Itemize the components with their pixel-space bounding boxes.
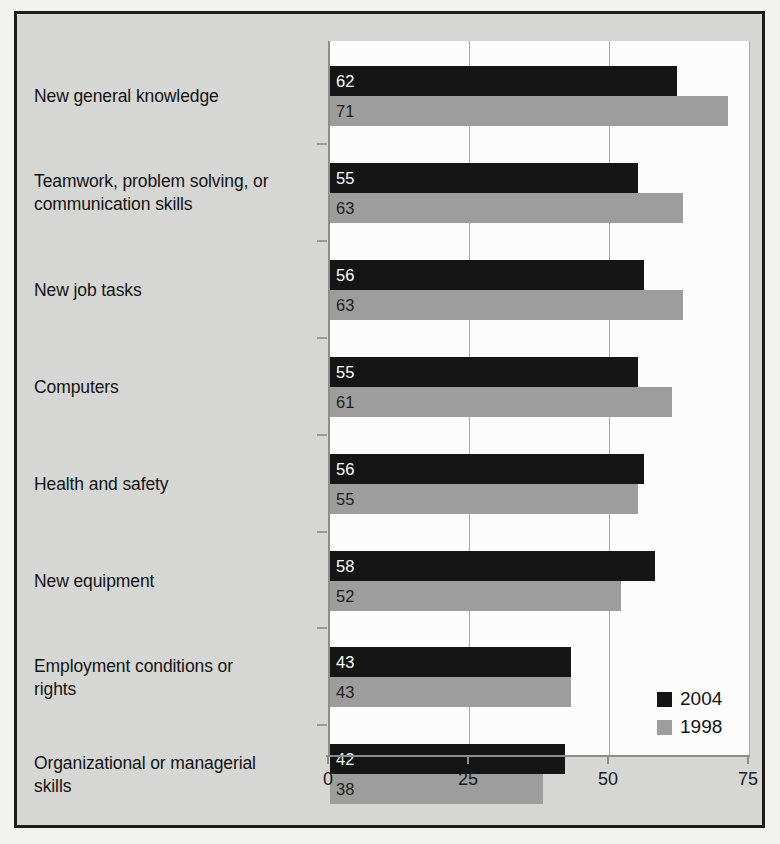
category-label-line: communication skills <box>34 193 322 216</box>
category-label-line: New general knowledge <box>34 85 322 108</box>
bar-2004-4: 56 <box>330 454 644 484</box>
category-label-7: Organizational or managerialskills <box>34 752 322 798</box>
category-label-6: Employment conditions orrights <box>34 655 322 701</box>
bar-value-label: 42 <box>336 751 354 768</box>
figure-page: New general knowledgeTeamwork, problem s… <box>0 0 780 844</box>
bar-2004-1: 55 <box>330 163 638 193</box>
bar-value-label: 62 <box>336 73 354 90</box>
bar-value-label: 55 <box>336 363 354 380</box>
bar-2004-5: 58 <box>330 551 655 581</box>
bar-2004-0: 62 <box>330 66 677 96</box>
bar-1998-0: 71 <box>330 96 728 126</box>
bar-value-label: 43 <box>336 684 354 701</box>
x-tick-label-0: 0 <box>298 769 358 790</box>
bar-value-label: 55 <box>336 490 354 507</box>
bar-1998-1: 63 <box>330 193 683 223</box>
category-label-3: Computers <box>34 376 322 399</box>
bar-2004-3: 55 <box>330 357 638 387</box>
bar-value-label: 63 <box>336 297 354 314</box>
category-separator-tick <box>317 240 327 242</box>
bar-value-label: 52 <box>336 587 354 604</box>
bar-value-label: 58 <box>336 557 354 574</box>
bar-value-label: 55 <box>336 170 354 187</box>
bar-1998-7: 38 <box>330 774 543 804</box>
x-tick-mark-0 <box>327 755 329 764</box>
category-separator-tick <box>317 627 327 629</box>
category-label-line: New job tasks <box>34 279 322 302</box>
category-label-line: New equipment <box>34 570 322 593</box>
category-separator-tick <box>317 143 327 145</box>
x-tick-label-75: 75 <box>718 769 778 790</box>
bar-1998-5: 52 <box>330 581 621 611</box>
gridline-75 <box>749 41 750 755</box>
category-separator-tick <box>317 337 327 339</box>
bar-2004-2: 56 <box>330 260 644 290</box>
category-label-line: Organizational or managerial <box>34 752 322 775</box>
bar-2004-6: 43 <box>330 647 571 677</box>
bar-value-label: 43 <box>336 654 354 671</box>
legend-swatch-icon <box>657 720 672 735</box>
bar-1998-4: 55 <box>330 484 638 514</box>
bar-1998-3: 61 <box>330 387 672 417</box>
bar-1998-2: 63 <box>330 290 683 320</box>
x-tick-label-25: 25 <box>438 769 498 790</box>
bar-value-label: 61 <box>336 393 354 410</box>
bar-value-label: 71 <box>336 103 354 120</box>
category-label-line: Health and safety <box>34 473 322 496</box>
bar-1998-6: 43 <box>330 677 571 707</box>
legend-swatch-icon <box>657 692 672 707</box>
x-tick-mark-75 <box>747 755 749 764</box>
category-label-2: New job tasks <box>34 279 322 302</box>
x-tick-mark-50 <box>607 755 609 764</box>
figure-frame: New general knowledgeTeamwork, problem s… <box>14 11 765 828</box>
category-label-5: New equipment <box>34 570 322 593</box>
category-label-line: rights <box>34 678 322 701</box>
category-separator-tick <box>317 724 327 726</box>
category-separator-tick <box>317 531 327 533</box>
x-axis-line <box>326 755 750 757</box>
category-label-4: Health and safety <box>34 473 322 496</box>
category-separator-tick <box>317 434 327 436</box>
category-label-line: skills <box>34 775 322 798</box>
x-tick-label-50: 50 <box>578 769 638 790</box>
category-label-1: Teamwork, problem solving, orcommunicati… <box>34 170 322 216</box>
legend-label: 1998 <box>680 716 722 738</box>
bar-value-label: 56 <box>336 267 354 284</box>
bar-value-label: 63 <box>336 200 354 217</box>
category-label-panel: New general knowledgeTeamwork, problem s… <box>17 14 323 825</box>
category-label-line: Computers <box>34 376 322 399</box>
category-label-line: Employment conditions or <box>34 655 322 678</box>
legend-label: 2004 <box>680 688 722 710</box>
bar-value-label: 56 <box>336 460 354 477</box>
plot-area: 62555655565843427163636155524338 <box>328 41 750 755</box>
category-label-0: New general knowledge <box>34 85 322 108</box>
x-tick-mark-25 <box>467 755 469 764</box>
category-label-line: Teamwork, problem solving, or <box>34 170 322 193</box>
chart-legend: 20041998 <box>635 672 748 755</box>
